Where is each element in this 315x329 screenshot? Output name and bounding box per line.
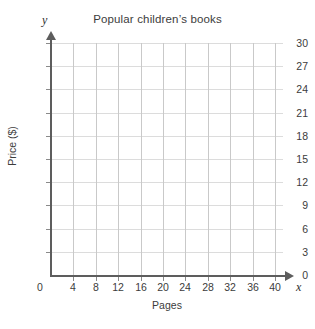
gridline-horizontal <box>51 89 283 90</box>
y-axis-tick <box>46 136 50 137</box>
y-axis-tick-label: 3 <box>271 247 315 258</box>
y-axis-tick <box>46 43 50 44</box>
y-axis-tick-label: 9 <box>271 200 315 211</box>
y-axis-tick-label: 30 <box>271 38 315 49</box>
gridline-vertical <box>230 43 231 275</box>
chart-container: Popular children’s books <box>0 0 315 329</box>
gridline-horizontal <box>51 43 283 44</box>
plot-area <box>51 43 283 275</box>
y-axis-tick-label: 6 <box>271 224 315 235</box>
gridline-horizontal <box>51 159 283 160</box>
gridline-vertical <box>141 43 142 275</box>
gridline-horizontal <box>51 66 283 67</box>
y-axis-tick-label: 0 <box>271 270 315 281</box>
y-axis-tick <box>46 89 50 90</box>
gridline-vertical <box>253 43 254 275</box>
y-axis-tick-label: 18 <box>271 131 315 142</box>
y-axis-title: Price ($) <box>6 96 18 196</box>
y-axis-variable-label: y <box>42 13 47 28</box>
y-axis-tick-label: 21 <box>271 108 315 119</box>
gridline-horizontal <box>51 113 283 114</box>
y-axis-line <box>50 39 52 276</box>
gridline-vertical <box>185 43 186 275</box>
y-axis-tick <box>46 159 50 160</box>
x-axis-variable-label: x <box>296 280 301 295</box>
gridline-vertical <box>208 43 209 275</box>
y-axis-arrowhead <box>46 31 56 40</box>
x-axis-line <box>50 275 287 277</box>
y-axis-tick-label: 12 <box>271 177 315 188</box>
gridline-horizontal <box>51 182 283 183</box>
gridline-vertical <box>118 43 119 275</box>
y-axis-tick <box>46 182 50 183</box>
gridline-vertical <box>96 43 97 275</box>
y-axis-tick <box>46 113 50 114</box>
gridline-vertical <box>73 43 74 275</box>
x-axis-title: Pages <box>51 299 283 311</box>
y-axis-tick-label: 27 <box>271 61 315 72</box>
gridline-horizontal <box>51 229 283 230</box>
x-axis-tick-label: 40 <box>260 281 290 293</box>
y-axis-tick <box>46 205 50 206</box>
y-axis-tick-label: 15 <box>271 154 315 165</box>
x-axis-tick-label: 0 <box>25 281 55 293</box>
gridline-vertical <box>163 43 164 275</box>
y-axis-tick-label: 24 <box>271 84 315 95</box>
y-axis-tick <box>46 66 50 67</box>
gridline-horizontal <box>51 205 283 206</box>
gridline-horizontal <box>51 252 283 253</box>
y-axis-tick <box>46 252 50 253</box>
gridline-horizontal <box>51 136 283 137</box>
y-axis-tick <box>46 229 50 230</box>
